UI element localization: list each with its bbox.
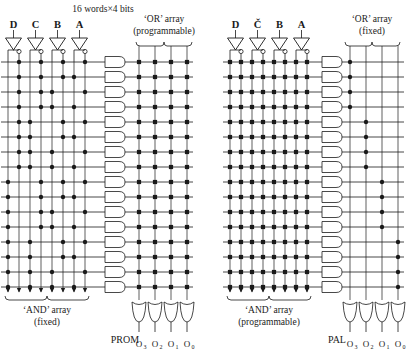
and-fuse-marker: [283, 75, 287, 79]
and-fuse-marker: [250, 270, 254, 274]
and-connection-dot: [50, 165, 54, 169]
and-fuse-marker: [239, 105, 243, 109]
pal-input-label-c: Č: [254, 18, 262, 30]
and-gate: [105, 72, 125, 83]
and-fuse-marker: [305, 255, 309, 259]
and-fuse-marker: [272, 180, 276, 184]
and-gate: [105, 162, 125, 173]
and-fuse-marker: [272, 135, 276, 139]
and-fuse-marker: [250, 120, 254, 124]
and-connection-dot: [72, 255, 76, 259]
pal-input-buffers: [228, 30, 310, 62]
and-fuse-marker: [283, 285, 287, 289]
and-gate: [322, 57, 342, 68]
pal-caption: PAL: [328, 334, 346, 345]
and-fuse-marker: [250, 60, 254, 64]
prom-and-array-brace: [5, 296, 89, 300]
and-fuse-marker: [294, 60, 298, 64]
and-fuse-marker: [239, 225, 243, 229]
and-fuse-marker: [294, 210, 298, 214]
prom-or-array: [137, 46, 189, 300]
and-fuse-marker: [305, 135, 309, 139]
and-fuse-marker: [283, 180, 287, 184]
and-connection-dot: [39, 75, 43, 79]
pal-product-term-rows: [223, 57, 404, 293]
pal-output-o3: O: [347, 339, 354, 349]
and-fuse-marker: [283, 225, 287, 229]
and-fuse-marker: [239, 180, 243, 184]
and-fuse-marker: [250, 105, 254, 109]
and-connection-dot: [6, 270, 10, 274]
and-fuse-marker: [283, 135, 287, 139]
and-connection-dot: [39, 60, 43, 64]
and-gate: [322, 147, 342, 158]
and-gate: [322, 207, 342, 218]
and-fuse-marker: [272, 90, 276, 94]
prom-output-o2: O: [152, 339, 159, 349]
and-fuse-marker: [228, 165, 232, 169]
and-connection-dot: [72, 75, 76, 79]
and-fuse-marker: [272, 195, 276, 199]
or-gate: [132, 302, 146, 322]
and-fuse-marker: [272, 60, 276, 64]
and-connection-dot: [28, 120, 32, 124]
and-fuse-marker: [250, 90, 254, 94]
and-fuse-marker: [228, 60, 232, 64]
and-connection-dot: [50, 270, 54, 274]
and-connection-dot: [83, 60, 87, 64]
pal-output-o0-sub: 0: [403, 344, 406, 350]
and-gate: [105, 87, 125, 98]
pal-or-array-label-line2: (fixed): [359, 26, 385, 37]
and-fuse-marker: [294, 180, 298, 184]
prom-output-o0: O: [184, 339, 191, 349]
and-fuse-marker: [261, 210, 265, 214]
pal-output-labels: O 3 O 2 O 1 O 0: [347, 339, 406, 350]
and-gate: [322, 117, 342, 128]
pal-output-o3-sub: 3: [355, 344, 358, 350]
and-fuse-marker: [239, 240, 243, 244]
and-fuse-marker: [239, 285, 243, 289]
and-gate: [322, 102, 342, 113]
pal-input-label-b: B: [276, 19, 283, 30]
and-connection-dot: [83, 90, 87, 94]
and-fuse-marker: [305, 60, 309, 64]
and-fuse-marker: [305, 75, 309, 79]
and-connection-dot: [39, 195, 43, 199]
and-fuse-marker: [239, 60, 243, 64]
and-gate: [322, 222, 342, 233]
and-connection-dot: [72, 195, 76, 199]
and-connection-dot: [50, 90, 54, 94]
and-fuse-marker: [261, 90, 265, 94]
prom-or-array-label-line2: (programmable): [133, 26, 195, 37]
and-connection-dot: [6, 255, 10, 259]
or-gate: [180, 302, 194, 322]
and-fuse-marker: [272, 210, 276, 214]
and-fuse-marker: [294, 195, 298, 199]
and-connection-dot: [28, 255, 32, 259]
pal-or-array: [348, 46, 400, 300]
and-fuse-marker: [294, 120, 298, 124]
pal-and-array-brace: [227, 296, 311, 300]
and-fuse-marker: [294, 150, 298, 154]
and-fuse-marker: [228, 180, 232, 184]
and-connection-dot: [39, 225, 43, 229]
and-gate: [105, 237, 125, 248]
and-fuse-marker: [228, 240, 232, 244]
and-connection-dot: [83, 180, 87, 184]
pal-output-o2: O: [363, 339, 370, 349]
and-fuse-marker: [305, 225, 309, 229]
and-fuse-marker: [239, 135, 243, 139]
and-connection-dot: [28, 150, 32, 154]
and-fuse-marker: [305, 120, 309, 124]
and-fuse-marker: [305, 150, 309, 154]
prom-or-array-brace: [136, 42, 192, 46]
pal-output-o2-sub: 2: [371, 344, 374, 350]
and-fuse-marker: [272, 255, 276, 259]
and-connection-dot: [72, 165, 76, 169]
and-fuse-marker: [294, 270, 298, 274]
and-fuse-marker: [283, 240, 287, 244]
and-fuse-marker: [283, 165, 287, 169]
and-connection-dot: [72, 225, 76, 229]
prom-caption: PROM: [111, 334, 139, 345]
and-connection-dot: [83, 240, 87, 244]
